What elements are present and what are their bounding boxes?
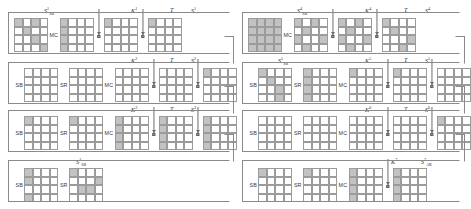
- wire-round-2: [8, 62, 230, 104]
- wire-round-6: [242, 110, 460, 152]
- grid-cell: [462, 116, 471, 125]
- wire-connector-1: [224, 36, 234, 64]
- wire-round-7: [242, 160, 460, 202]
- wire-connector-5: [455, 86, 465, 114]
- wire-connector-4: [455, 36, 465, 64]
- wire-round-4: [8, 160, 230, 202]
- wire-connector-2: [224, 86, 234, 114]
- wire-connector-6: [455, 134, 465, 162]
- wire-round-3: [8, 110, 230, 152]
- grid-cell: [462, 68, 471, 77]
- wire-round-1: [8, 12, 230, 54]
- wire-round-5: [242, 62, 460, 104]
- wire-round-4b: [242, 12, 460, 54]
- grid-cell: [462, 77, 471, 86]
- grid-cell: [462, 125, 471, 134]
- wire-connector-3: [224, 134, 234, 162]
